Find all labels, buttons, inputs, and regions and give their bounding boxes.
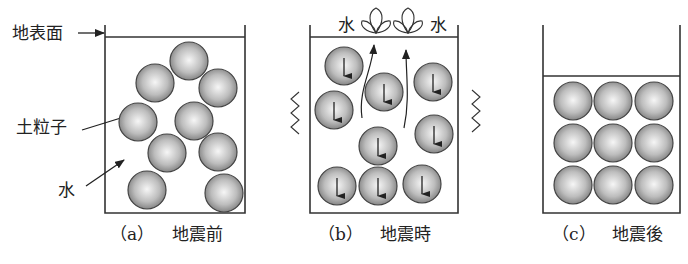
water-spout-icon: [362, 8, 391, 33]
caption-a-letter: （a）: [110, 224, 154, 244]
soil-particles-compacted: [554, 82, 673, 204]
caption-b-letter: （b）: [318, 224, 363, 244]
soil-particles-loose: [119, 42, 243, 212]
panel-b-during-earthquake: 水 水: [291, 8, 480, 244]
water-flow-arrow-icon: [404, 50, 407, 128]
panel-c-after-earthquake: （c） 地震後: [543, 25, 680, 244]
water-spout-icon: [394, 8, 423, 33]
soil-particle-label: 土粒子: [16, 117, 67, 137]
ground-surface-label: 地表面: [12, 23, 63, 43]
liquefaction-diagram: 地表面 土粒子 水 （a） 地震前 水 水: [0, 0, 688, 264]
soil-particles-settling: [315, 47, 453, 205]
water-label-right: 水: [430, 15, 447, 35]
caption-b-text: 地震時: [380, 224, 431, 244]
panel-a-before-earthquake: 地表面 土粒子 水 （a） 地震前: [12, 23, 245, 244]
caption-a-text: 地震前: [172, 224, 223, 244]
caption-c-text: 地震後: [612, 224, 663, 244]
water-label: 水: [58, 180, 75, 200]
caption-c-letter: （c）: [552, 224, 596, 244]
vibration-icon: [472, 90, 480, 132]
vibration-icon: [291, 92, 299, 134]
water-label-left: 水: [338, 15, 355, 35]
